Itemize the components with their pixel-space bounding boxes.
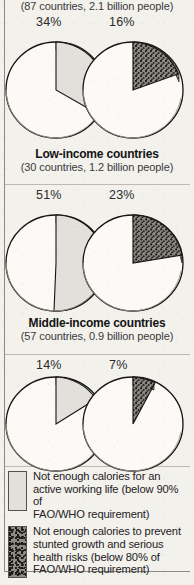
percent-labels: 14% 7%	[0, 358, 194, 373]
legend-label-below-90: Not enough calories for an active workin…	[33, 470, 190, 520]
legend-swatch-light-gray	[8, 471, 27, 511]
legend-line: Not enough calories for an	[33, 470, 190, 483]
legend-line: active working life (below 90% of	[33, 483, 190, 508]
group-caption: Middle-income countries (57 countries, 0…	[0, 317, 194, 343]
legend-item-below-90: Not enough calories for an active workin…	[8, 470, 190, 520]
percent-labels: 51% 23%	[0, 188, 194, 203]
pie-pair	[0, 372, 194, 484]
percent-label-light: 51%	[36, 188, 62, 202]
pie-pair-svg	[0, 30, 194, 142]
percent-label-light: 34%	[36, 15, 62, 29]
legend-line: health risks (below 80% of	[33, 551, 181, 564]
infographic-page: (87 countries, 2.1 billion people) 34% 1…	[0, 0, 194, 585]
legend-item-below-80: Not enough calories to prevent stunted g…	[8, 525, 190, 578]
group-caption: Low-income countries (30 countries, 1.2 …	[0, 148, 194, 174]
group-subtitle: (57 countries, 0.9 billion people)	[0, 330, 194, 343]
percent-label-dark: 23%	[109, 188, 135, 202]
legend-line: Not enough calories to prevent	[33, 525, 181, 538]
group-title: Low-income countries	[0, 148, 194, 161]
percent-labels: 34% 16%	[0, 15, 194, 30]
pie-pair-svg	[0, 372, 194, 472]
pie-pair	[0, 203, 194, 315]
group-subtitle-next: (30 countries, 1.2 billion people)	[0, 161, 194, 174]
legend-line: FAO/WHO requirement)	[33, 508, 190, 521]
percent-label-dark: 7%	[109, 358, 127, 372]
chart-group-all-developing: (87 countries, 2.1 billion people) 34% 1…	[0, 0, 194, 184]
pie-pair	[0, 30, 194, 142]
chart-group-low-income: 51% 23%	[0, 184, 194, 354]
percent-label-light: 14%	[36, 358, 62, 372]
legend-swatch-dark-stipple	[8, 526, 27, 578]
legend-label-below-80: Not enough calories to prevent stunted g…	[33, 525, 181, 575]
pie-pair-svg	[0, 203, 194, 315]
legend-line: stunted growth and serious	[33, 538, 181, 551]
chart-group-middle-income: 14% 7%	[0, 354, 194, 466]
legend-line: FAO/WHO requirement)	[33, 563, 181, 576]
chart-legend: Not enough calories for an active workin…	[8, 470, 190, 583]
group-title: Middle-income countries	[0, 317, 194, 330]
percent-label-dark: 16%	[109, 15, 135, 29]
group-subtitle: (87 countries, 2.1 billion people)	[0, 0, 194, 13]
